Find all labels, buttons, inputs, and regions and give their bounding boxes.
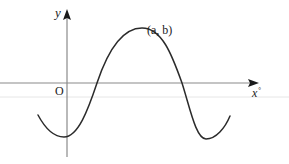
x-axis-label: x° bbox=[252, 87, 261, 99]
y-axis-label: y bbox=[55, 6, 61, 19]
origin-label: O bbox=[55, 85, 64, 97]
graph-canvas bbox=[0, 0, 289, 164]
degree-unit: ° bbox=[258, 86, 261, 94]
x-axis bbox=[0, 79, 259, 87]
graph-diagram: y O (a, b) x° bbox=[0, 0, 289, 164]
max-point-label: (a, b) bbox=[147, 24, 172, 36]
x-axis-symbol: x bbox=[252, 86, 257, 100]
